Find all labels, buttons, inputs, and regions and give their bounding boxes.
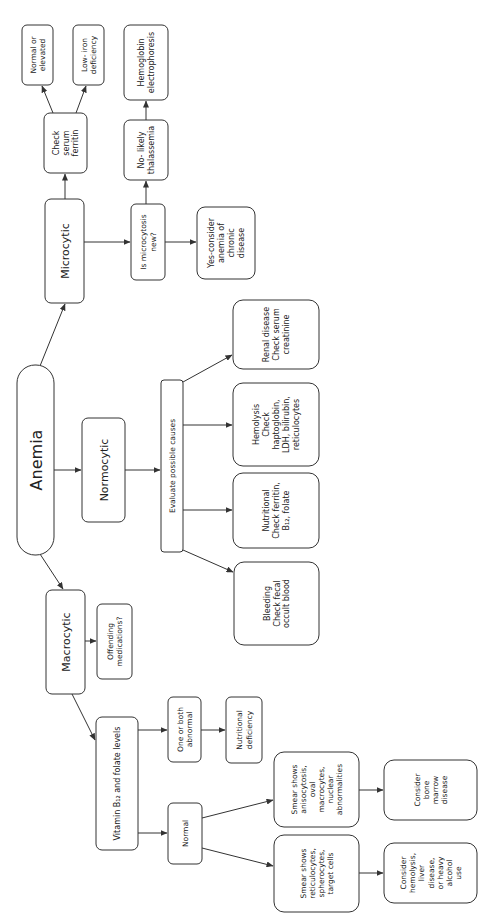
anemia-flowchart: AnemiaMicrocyticNormocyticMacrocyticChec… xyxy=(0,0,489,922)
node-low-iron-deficiency: Low- irondeficiency xyxy=(73,25,104,85)
node-label-line: Evaluate possible causes xyxy=(168,419,177,513)
node-label-line: Check ferritin, xyxy=(272,482,281,539)
node-nutritional: NutritionalCheck ferritin,B₁₂, folate xyxy=(233,473,319,548)
node-label-line: reticulocytes xyxy=(291,399,300,450)
node-label-line: hemolysis, xyxy=(408,853,417,893)
node-label-line: Smear shows xyxy=(298,848,307,898)
node-label-line: Check xyxy=(51,130,60,155)
node-renal-disease: Renal diseaseCheck serumcreatinine xyxy=(233,300,319,369)
node-label-line: Vitamin B₁₂ and folate levels xyxy=(113,727,122,841)
node-consider-hemolysis-liver-alcohol: Considerhemolysis,liverdisease,or heavya… xyxy=(384,843,477,903)
node-label-line: Is microcytosis xyxy=(139,214,148,270)
node-label-line: nuclear xyxy=(326,775,335,804)
node-macrocytic: Macrocytic xyxy=(46,590,85,694)
node-label-line: Consider xyxy=(399,856,408,890)
node-label-line: anisocytosis, xyxy=(298,765,307,813)
node-evaluate-possible-causes: Evaluate possible causes xyxy=(161,380,183,552)
node-label: Hemoglobinelectrophoresis xyxy=(137,32,156,93)
node-label-line: Macrocytic xyxy=(59,612,72,671)
node-label-line: Check fecal xyxy=(272,580,281,626)
node-label-line: creatinine xyxy=(281,314,290,354)
node-label-line: LDH, bilirubin, xyxy=(281,396,290,453)
node-label: Smear showsanisocytosis,ovalmacrocytes,n… xyxy=(289,764,344,815)
node-label-line: ferritin xyxy=(71,130,80,157)
arrow-anemia-to-macrocytic xyxy=(40,554,63,589)
node-label-line: Low- iron xyxy=(79,38,88,72)
node-label-line: marrow xyxy=(431,776,440,805)
node-label-line: bone xyxy=(421,780,430,799)
node-label-line: Normal xyxy=(181,820,190,847)
node-label: Anemia xyxy=(26,430,45,491)
node-label-line: No- likely xyxy=(137,131,146,168)
node-check-serum-ferritin: Checkserumferritin xyxy=(44,113,87,173)
node-label: Evaluate possible causes xyxy=(168,419,177,513)
node-label-line: disease xyxy=(440,775,449,804)
node-label-line: deficiency xyxy=(244,710,253,749)
node-label-line: serum xyxy=(61,130,70,155)
node-label-line: new? xyxy=(148,232,157,252)
node-label-line: B₁₂, folate xyxy=(281,490,290,530)
node-label-line: anemia of xyxy=(217,223,226,263)
node-hemolysis: HemolysisCheckhaptoglobin,LDH, bilirubin… xyxy=(233,383,319,466)
node-nutritional-deficiency: Nutritionaldeficiency xyxy=(226,697,262,763)
node-label-line: liver xyxy=(417,864,426,881)
node-label: Normal xyxy=(181,820,190,847)
arrow-macrocytic-to-vitamin-b12-folate xyxy=(72,694,95,740)
node-label-line: Smear shows xyxy=(289,764,298,814)
node-label-line: Offending xyxy=(105,623,114,660)
node-label: Smear showsreticulocytes,spherocytes,tar… xyxy=(298,848,334,899)
node-label-line: medications? xyxy=(115,617,124,667)
node-consider-bone-marrow: Considerbonemarrowdisease xyxy=(384,760,477,820)
node-label: Checkserumferritin xyxy=(51,130,80,157)
node-label: One or bothabnormal xyxy=(175,707,193,752)
node-label-line: disease xyxy=(236,228,245,258)
node-label: Low- irondeficiency xyxy=(79,35,97,74)
node-label-line: Check serum xyxy=(272,308,281,361)
node-label-line: target cells xyxy=(326,852,335,894)
node-normocytic: Normocytic xyxy=(82,418,125,522)
node-vitamin-b12-folate: Vitamin B₁₂ and folate levels xyxy=(96,717,138,850)
node-label: HemolysisCheckhaptoglobin,LDH, bilirubin… xyxy=(252,396,300,453)
node-label-line: abnormalities xyxy=(335,764,344,815)
node-label-line: Normal or xyxy=(28,35,37,73)
node-label-line: deficiency xyxy=(89,35,98,74)
node-label: BleedingCheck fecaloccult blood xyxy=(262,579,291,628)
node-label-line: haptoglobin, xyxy=(272,399,281,449)
arrow-check-serum-ferritin-to-low-iron-deficiency xyxy=(76,86,86,113)
node-normal: Normal xyxy=(168,803,202,864)
node-label-line: Consider xyxy=(412,773,421,807)
node-label-line: One or both xyxy=(175,707,184,752)
node-bleeding: BleedingCheck fecaloccult blood xyxy=(234,562,319,645)
node-label-line: Normocytic xyxy=(97,439,110,502)
node-label-line: electrophoresis xyxy=(146,32,155,93)
node-label-line: Yes-consider xyxy=(207,217,216,269)
node-label-line: occult blood xyxy=(282,579,291,628)
node-label-line: disease, xyxy=(426,858,435,889)
node-label: Vitamin B₁₂ and folate levels xyxy=(113,727,122,841)
node-label: No- likelythalassemia xyxy=(137,126,156,175)
arrow-evaluate-possible-causes-to-bleeding xyxy=(183,550,233,572)
node-no-likely-thalassemia: No- likelythalassemia xyxy=(124,120,168,180)
node-label-line: thalassemia xyxy=(146,126,155,175)
node-label-line: Hemolysis xyxy=(252,404,261,445)
node-label: NutritionalCheck ferritin,B₁₂, folate xyxy=(262,482,291,539)
node-normal-or-elevated: Normal orelevated xyxy=(22,25,53,85)
node-smear-anisocytosis: Smear showsanisocytosis,ovalmacrocytes,n… xyxy=(274,752,359,827)
node-label-line: alcohol xyxy=(444,860,453,887)
node-label: Renal diseaseCheck serumcreatinine xyxy=(262,307,291,362)
node-label: Macrocytic xyxy=(59,612,72,671)
node-label: Microcytic xyxy=(58,223,71,279)
node-label-line: use xyxy=(453,866,462,880)
node-label: Considerbonemarrowdisease xyxy=(412,773,448,807)
node-label: Nutritionaldeficiency xyxy=(235,710,253,750)
node-one-or-both-abnormal: One or bothabnormal xyxy=(168,697,201,762)
node-is-microcytosis-new: Is microcytosisnew? xyxy=(131,204,165,280)
node-label-line: Bleeding xyxy=(262,586,271,621)
flowchart-nodes: AnemiaMicrocyticNormocyticMacrocyticChec… xyxy=(17,25,477,912)
node-label-line: Anemia xyxy=(26,430,45,491)
node-label-line: Nutritional xyxy=(262,489,271,531)
node-yes-anemia-chronic-disease: Yes-consideranemia ofchronicdisease xyxy=(197,207,255,279)
node-anemia: Anemia xyxy=(17,365,54,555)
node-label-line: oval xyxy=(307,782,316,798)
node-label: Normal orelevated xyxy=(28,35,46,73)
